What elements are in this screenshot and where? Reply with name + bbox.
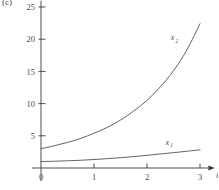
curve-label-subscript: 2 xyxy=(175,38,178,44)
curves-group xyxy=(41,24,200,162)
curve-label-x2: x2 xyxy=(170,33,179,43)
curve-label-base: x xyxy=(165,138,170,147)
chart-plot: 5101520250123t x2x1 xyxy=(0,0,218,190)
y-tick-label: 25 xyxy=(27,2,36,12)
curve-x1 xyxy=(41,150,200,162)
axis-tick-labels: 5101520250123t xyxy=(27,2,219,181)
y-tick-label: 15 xyxy=(27,67,36,77)
y-tick-label: 10 xyxy=(27,99,36,109)
y-tick-label: 5 xyxy=(31,131,35,141)
x-tick-label: 2 xyxy=(145,172,149,182)
x-tick-label: 1 xyxy=(92,172,96,182)
x-axis-arrowhead xyxy=(208,165,215,170)
curve-annotations: x2x1 xyxy=(165,33,179,148)
y-tick-label: 20 xyxy=(27,34,36,44)
x-tick-label: 3 xyxy=(198,172,202,182)
curve-label-subscript: 1 xyxy=(170,142,173,148)
figure-panel: (c) 5101520250123t x2x1 xyxy=(0,0,218,190)
curve-label-base: x xyxy=(170,33,175,42)
curve-label-x1: x1 xyxy=(165,138,174,148)
axes-group xyxy=(32,1,215,181)
x-tick-label: 0 xyxy=(39,172,43,182)
x-axis-name: t xyxy=(216,171,218,180)
